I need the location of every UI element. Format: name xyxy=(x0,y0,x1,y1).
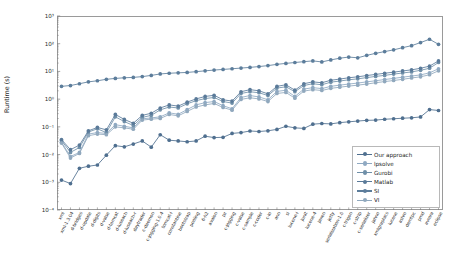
legend-label: Our approach xyxy=(372,152,412,158)
data-point xyxy=(78,166,82,170)
data-point xyxy=(167,138,171,142)
data-point xyxy=(347,120,351,124)
data-point xyxy=(221,135,225,139)
legend-marker-icon xyxy=(357,150,372,159)
data-point xyxy=(329,122,333,126)
data-point xyxy=(320,60,324,64)
data-point xyxy=(96,163,100,167)
data-point xyxy=(114,77,118,81)
data-point xyxy=(419,66,423,70)
data-point xyxy=(428,64,432,68)
data-point xyxy=(347,84,351,88)
data-point xyxy=(329,58,333,62)
data-point xyxy=(365,54,369,58)
x-tick-label: pz xyxy=(221,211,228,218)
legend-item-gurobi[interactable]: Gurobi xyxy=(357,168,436,177)
data-point xyxy=(194,139,198,143)
x-tick-label: sl xyxy=(284,211,290,216)
data-point xyxy=(158,117,162,121)
data-point xyxy=(203,134,207,138)
data-point xyxy=(338,121,342,125)
data-point xyxy=(428,108,432,112)
data-point xyxy=(401,69,405,73)
data-point xyxy=(212,93,216,97)
data-point xyxy=(69,156,73,160)
data-point xyxy=(338,56,342,60)
legend-item-lpsolve[interactable]: lpsolve xyxy=(357,159,436,168)
data-point xyxy=(266,100,270,104)
data-point xyxy=(140,114,144,118)
data-point xyxy=(149,111,153,115)
data-point xyxy=(203,69,207,73)
data-point xyxy=(437,59,441,63)
data-point xyxy=(437,42,441,46)
data-point xyxy=(266,64,270,68)
data-point xyxy=(140,139,144,143)
legend-item-vi[interactable]: VI xyxy=(357,195,436,204)
data-point xyxy=(149,74,153,78)
series-gurobi xyxy=(60,61,441,155)
data-point xyxy=(114,113,118,117)
data-point xyxy=(329,87,333,91)
data-point xyxy=(131,142,135,146)
figure: Runtime (s) 10³10²10¹10⁰10⁻¹10⁻²10⁻³10⁻⁴… xyxy=(0,0,460,270)
data-point xyxy=(221,68,225,72)
data-point xyxy=(176,139,180,143)
data-point xyxy=(140,75,144,79)
data-point xyxy=(230,67,234,71)
data-point xyxy=(167,103,171,107)
data-point xyxy=(69,84,73,88)
legend-item-matlab[interactable]: Matlab xyxy=(357,177,436,186)
data-point xyxy=(114,144,118,148)
data-point xyxy=(338,85,342,89)
data-point xyxy=(248,129,252,133)
legend-label: VI xyxy=(372,197,379,203)
legend-marker-icon xyxy=(357,196,372,205)
data-point xyxy=(230,99,234,103)
data-point xyxy=(87,164,91,168)
data-point xyxy=(158,133,162,137)
data-point xyxy=(96,126,100,130)
data-point xyxy=(257,89,261,93)
data-point xyxy=(302,127,306,131)
data-point xyxy=(293,96,297,100)
data-point xyxy=(374,118,378,122)
data-point xyxy=(293,88,297,92)
legend-label: Matlab xyxy=(372,179,393,185)
data-point xyxy=(78,143,82,147)
data-point xyxy=(392,48,396,52)
data-point xyxy=(383,50,387,54)
data-point xyxy=(356,75,360,79)
data-point xyxy=(131,121,135,125)
data-point xyxy=(140,118,144,122)
data-point xyxy=(257,130,261,134)
data-point xyxy=(122,126,126,130)
data-point xyxy=(122,76,126,80)
data-point xyxy=(212,136,216,140)
data-point xyxy=(194,97,198,101)
data-point xyxy=(158,72,162,76)
data-point xyxy=(239,66,243,70)
data-point xyxy=(87,134,91,138)
data-point xyxy=(105,128,109,132)
legend-marker-icon xyxy=(357,177,372,186)
legend-label: lpsolve xyxy=(372,161,394,167)
data-point xyxy=(410,76,414,80)
data-point xyxy=(266,92,270,96)
data-point xyxy=(131,127,135,131)
data-point xyxy=(401,77,405,81)
data-point xyxy=(203,95,207,99)
data-point xyxy=(78,82,82,86)
legend-label: Gurobi xyxy=(372,170,393,176)
data-point xyxy=(437,69,441,73)
legend-item-si[interactable]: SI xyxy=(357,186,436,195)
data-point xyxy=(60,84,64,88)
data-point xyxy=(419,115,423,119)
legend-item-our-approach[interactable]: Our approach xyxy=(357,150,436,159)
data-point xyxy=(275,63,279,67)
data-point xyxy=(96,79,100,83)
data-point xyxy=(428,37,432,41)
data-point xyxy=(284,124,288,128)
data-point xyxy=(392,70,396,74)
data-point xyxy=(284,62,288,66)
